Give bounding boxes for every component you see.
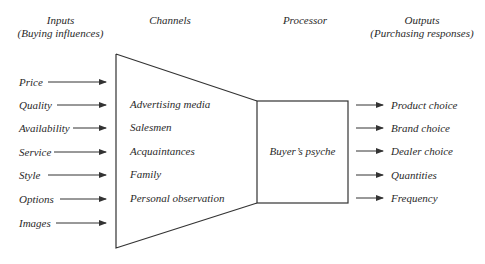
- channel-label-advertising-media: Advertising media: [130, 98, 210, 111]
- input-label-options: Options: [19, 193, 54, 206]
- input-label-availability: Availability: [19, 122, 70, 135]
- header-outputs: Outputs (Purchasing responses): [362, 14, 482, 40]
- output-label-product-choice: Product choice: [391, 99, 457, 112]
- header-outputs-subtitle: (Purchasing responses): [362, 27, 482, 40]
- output-label-brand-choice: Brand choice: [391, 122, 450, 135]
- header-processor-title: Processor: [270, 14, 340, 27]
- header-outputs-title: Outputs: [362, 14, 482, 27]
- input-label-quality: Quality: [19, 99, 52, 112]
- input-label-style: Style: [19, 169, 40, 182]
- processor-label: Buyer’s psyche: [257, 145, 348, 158]
- output-label-frequency: Frequency: [391, 192, 438, 205]
- channel-label-family: Family: [130, 168, 161, 181]
- channel-label-personal-observation: Personal observation: [130, 192, 224, 205]
- input-label-price: Price: [19, 76, 43, 89]
- output-label-dealer-choice: Dealer choice: [391, 145, 453, 158]
- header-channels-title: Channels: [140, 14, 200, 27]
- header-inputs: Inputs (Buying influences): [8, 14, 113, 40]
- output-arrows: [356, 105, 383, 198]
- input-arrows: [48, 82, 106, 223]
- output-label-quantities: Quantities: [391, 169, 437, 182]
- header-channels: Channels: [140, 14, 200, 27]
- header-processor: Processor: [270, 14, 340, 27]
- header-inputs-subtitle: (Buying influences): [8, 27, 113, 40]
- input-label-service: Service: [19, 146, 51, 159]
- channel-label-salesmen: Salesmen: [130, 121, 172, 134]
- channel-label-acquaintances: Acquaintances: [130, 145, 195, 158]
- header-inputs-title: Inputs: [8, 14, 113, 27]
- input-label-images: Images: [19, 217, 51, 230]
